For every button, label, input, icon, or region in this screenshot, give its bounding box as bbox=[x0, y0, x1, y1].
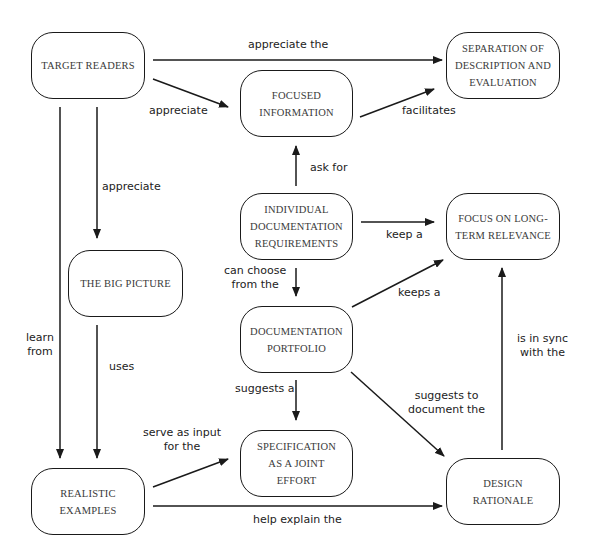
node-focused-information: FOCUSED INFORMATION bbox=[240, 70, 353, 137]
node-specification-text: SPECIFICATION AS A JOINT EFFORT bbox=[257, 438, 336, 489]
node-target-readers: TARGET READERS bbox=[31, 32, 145, 99]
label-facilitates: facilitates bbox=[402, 104, 456, 118]
label-appreciate-bigpicture: appreciate bbox=[102, 180, 161, 194]
concept-map: TARGET READERS SEPARATION OF DESCRIPTION… bbox=[0, 0, 593, 556]
node-focused-information-text: FOCUSED INFORMATION bbox=[259, 87, 334, 121]
label-can-choose: can choose from the bbox=[224, 264, 286, 292]
node-focus-long-term: FOCUS ON LONG- TERM RELEVANCE bbox=[446, 193, 560, 260]
label-serve-as-input: serve as input for the bbox=[143, 426, 221, 454]
node-documentation-portfolio-text: DOCUMENTATION PORTFOLIO bbox=[250, 323, 343, 357]
label-appreciate-the: appreciate the bbox=[248, 38, 328, 52]
node-focus-long-term-text: FOCUS ON LONG- TERM RELEVANCE bbox=[455, 210, 551, 244]
node-individual-requirements: INDIVIDUAL DOCUMENTATION REQUIREMENTS bbox=[240, 193, 353, 260]
node-separation-text: SEPARATION OF DESCRIPTION AND EVALUATION bbox=[455, 40, 551, 91]
label-keeps-a: keeps a bbox=[398, 286, 440, 300]
label-suggests-a: suggests a bbox=[235, 382, 294, 396]
label-ask-for: ask for bbox=[310, 161, 347, 175]
node-specification: SPECIFICATION AS A JOINT EFFORT bbox=[240, 430, 353, 497]
edge-target-to-focused bbox=[153, 79, 228, 107]
label-learn-from: learn from bbox=[26, 331, 54, 359]
edge-examples-to-specification bbox=[153, 459, 228, 487]
node-big-picture: THE BIG PICTURE bbox=[68, 250, 183, 317]
label-appreciate-focused: appreciate bbox=[149, 104, 208, 118]
label-in-sync: is in sync with the bbox=[517, 332, 568, 360]
node-documentation-portfolio: DOCUMENTATION PORTFOLIO bbox=[240, 306, 353, 373]
node-target-readers-text: TARGET READERS bbox=[41, 57, 135, 74]
label-keep-a: keep a bbox=[386, 228, 423, 242]
node-design-rationale: DESIGN RATIONALE bbox=[446, 458, 560, 525]
node-separation: SEPARATION OF DESCRIPTION AND EVALUATION bbox=[446, 32, 560, 99]
label-suggests-to-document: suggests to document the bbox=[408, 389, 485, 417]
node-big-picture-text: THE BIG PICTURE bbox=[80, 275, 171, 292]
label-uses: uses bbox=[109, 360, 134, 374]
node-design-rationale-text: DESIGN RATIONALE bbox=[473, 475, 534, 509]
node-realistic-examples: REALISTIC EXAMPLES bbox=[31, 468, 145, 535]
label-help-explain: help explain the bbox=[253, 513, 342, 527]
node-individual-requirements-text: INDIVIDUAL DOCUMENTATION REQUIREMENTS bbox=[250, 201, 343, 252]
node-realistic-examples-text: REALISTIC EXAMPLES bbox=[59, 485, 116, 519]
